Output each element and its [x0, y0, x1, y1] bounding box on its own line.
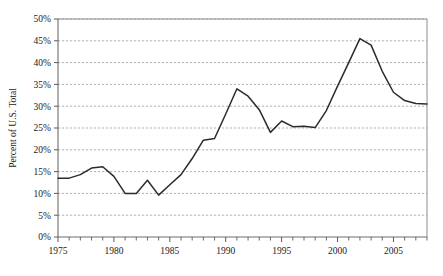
x-tick-label: 1975 [49, 246, 68, 256]
x-axis-ticks [58, 237, 427, 242]
x-tick-label: 2005 [384, 246, 403, 256]
x-tick-label: 1995 [272, 246, 291, 256]
y-tick-label: 45% [34, 36, 52, 46]
x-tick-label: 1985 [160, 246, 179, 256]
y-axis-title-text: Percent of U.S. Total [8, 88, 18, 168]
y-axis-ticks [54, 19, 58, 237]
x-tick-label: 1990 [216, 246, 235, 256]
x-axis-tick-labels: 1975198019851990199520002005 [49, 246, 404, 256]
x-tick-label: 1980 [104, 246, 123, 256]
y-tick-label: 40% [34, 58, 52, 68]
chart-container: 0%5%10%15%20%25%30%35%40%45%50% 19751980… [0, 0, 443, 276]
gridlines [58, 19, 427, 215]
line-chart: 0%5%10%15%20%25%30%35%40%45%50% 19751980… [0, 0, 443, 276]
y-tick-label: 25% [34, 123, 52, 133]
x-tick-label: 2000 [328, 246, 347, 256]
y-tick-label: 15% [34, 167, 52, 177]
y-tick-label: 30% [34, 102, 52, 112]
y-axis-tick-labels: 0%5%10%15%20%25%30%35%40%45%50% [34, 14, 52, 242]
y-tick-label: 10% [34, 189, 52, 199]
y-tick-label: 35% [34, 80, 52, 90]
y-tick-label: 5% [38, 211, 51, 221]
y-tick-label: 50% [34, 14, 52, 24]
y-tick-label: 20% [34, 145, 52, 155]
y-tick-label: 0% [38, 232, 51, 242]
y-axis-title: Percent of U.S. Total [8, 88, 18, 168]
